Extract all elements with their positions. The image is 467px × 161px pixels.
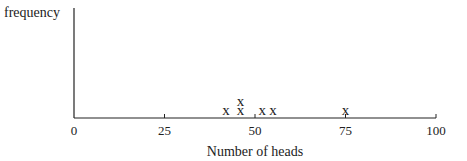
x-tick-label: 75 [339,123,352,138]
x-marker: x [222,102,230,118]
y-axis-label: frequency [4,5,60,20]
dot-plot-chart: 0255075100 xxxxxx frequency Number of he… [0,0,467,161]
x-axis-label: Number of heads [207,144,303,159]
x-tick-label: 100 [426,123,446,138]
x-marker: x [237,93,245,109]
x-marker: x [269,102,277,118]
x-tick-label: 25 [158,123,171,138]
axes [74,8,436,118]
data-markers: xxxxxx [222,93,349,118]
x-marker: x [342,102,350,118]
x-tick-label: 0 [71,123,78,138]
x-marker: x [258,102,266,118]
x-tick-label: 50 [249,123,262,138]
